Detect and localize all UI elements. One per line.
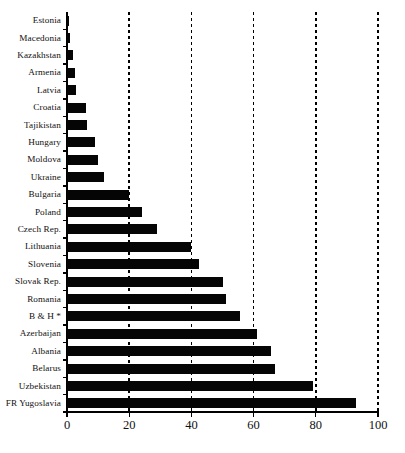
bar: [67, 398, 356, 408]
category-label: Romania: [27, 294, 61, 304]
category-label: B & H *: [29, 311, 61, 321]
bar: [67, 85, 76, 95]
y-tick-mark: [63, 324, 67, 325]
category-label: Ukraine: [31, 172, 61, 182]
category-label-column: EstoniaMacedoniaKazakhstanArmeniaLatviaC…: [0, 0, 64, 453]
category-label: Slovak Rep.: [15, 276, 61, 286]
y-tick-mark: [63, 81, 67, 82]
y-tick-mark: [63, 98, 67, 99]
category-label: Slovenia: [28, 259, 61, 269]
bar: [67, 155, 98, 165]
category-label: Lithuania: [25, 241, 61, 251]
y-tick-mark: [63, 307, 67, 308]
bar: [67, 190, 129, 200]
x-tick-label-80: 80: [310, 418, 323, 432]
y-tick-mark: [63, 220, 67, 221]
horizontal-bar-chart: EstoniaMacedoniaKazakhstanArmeniaLatviaC…: [0, 0, 405, 453]
y-tick-mark: [63, 272, 67, 273]
y-tick-mark: [63, 359, 67, 360]
x-tick-mark-100: [377, 413, 378, 417]
x-axis-line: [66, 411, 379, 413]
bar: [67, 364, 275, 374]
bar: [67, 68, 75, 78]
bar: [67, 120, 87, 130]
category-label: Armenia: [28, 67, 61, 77]
category-label: Tajikistan: [24, 120, 61, 130]
category-label: Croatia: [33, 102, 61, 112]
x-tick-label-40: 40: [185, 418, 198, 432]
category-label: Estonia: [33, 15, 61, 25]
bar: [67, 294, 226, 304]
y-tick-mark: [63, 290, 67, 291]
bar: [67, 33, 70, 43]
category-label: Bulgaria: [29, 189, 61, 199]
y-tick-mark: [63, 255, 67, 256]
x-tick-mark-20: [129, 413, 130, 417]
bar: [67, 137, 95, 147]
bar: [67, 103, 86, 113]
category-label: Uzbekistan: [19, 381, 61, 391]
category-label: Hungary: [28, 137, 61, 147]
y-tick-mark: [63, 168, 67, 169]
category-label: Kazakhstan: [17, 50, 61, 60]
bar: [67, 172, 104, 182]
x-tick-mark-80: [315, 413, 316, 417]
x-tick-label-0: 0: [64, 418, 70, 432]
bar: [67, 311, 240, 321]
bar: [67, 346, 271, 356]
bar: [67, 277, 223, 287]
bar: [67, 259, 199, 269]
y-tick-mark: [63, 185, 67, 186]
category-label: Belarus: [32, 363, 61, 373]
y-tick-mark: [63, 150, 67, 151]
category-label: FR Yugoslavia: [6, 398, 61, 408]
y-tick-mark: [63, 29, 67, 30]
category-label: Czech Rep.: [18, 224, 61, 234]
plot-area: [67, 12, 378, 412]
category-label: Albania: [31, 346, 61, 356]
y-tick-mark: [63, 203, 67, 204]
x-tick-mark-0: [66, 413, 67, 417]
x-tick-mark-60: [253, 413, 254, 417]
y-tick-mark: [63, 63, 67, 64]
bar: [67, 50, 73, 60]
category-label: Moldova: [27, 154, 61, 164]
category-label: Azerbaijan: [20, 328, 61, 338]
bar: [67, 381, 313, 391]
y-tick-mark: [63, 116, 67, 117]
y-tick-mark: [63, 133, 67, 134]
y-tick-mark: [63, 342, 67, 343]
category-label: Poland: [35, 207, 61, 217]
x-tick-label-60: 60: [247, 418, 260, 432]
gridline-100: [377, 12, 379, 412]
gridline-80: [315, 12, 317, 412]
y-tick-mark: [63, 237, 67, 238]
bar: [67, 16, 69, 26]
bar: [67, 207, 142, 217]
y-tick-mark: [63, 377, 67, 378]
y-tick-mark: [63, 46, 67, 47]
x-tick-mark-40: [191, 413, 192, 417]
category-label: Macedonia: [19, 33, 61, 43]
bar: [67, 242, 191, 252]
y-tick-mark: [63, 394, 67, 395]
x-tick-label-100: 100: [369, 418, 388, 432]
bar: [67, 224, 157, 234]
x-tick-label-20: 20: [123, 418, 136, 432]
category-label: Latvia: [37, 85, 61, 95]
bar: [67, 329, 257, 339]
